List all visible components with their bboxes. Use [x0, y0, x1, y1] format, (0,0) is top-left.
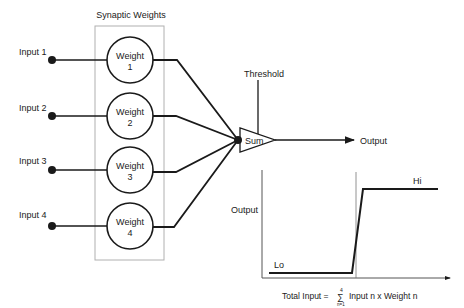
hi-label: Hi — [413, 176, 422, 186]
input-label: Input 4 — [19, 210, 47, 220]
sum-label: Sum — [245, 136, 264, 146]
input-label: Input 3 — [19, 156, 47, 166]
sigma-icon: ∑ — [337, 292, 343, 302]
step-function-graph: Output Lo Hi Total Input = ∑ 4 n=1 Input… — [231, 170, 450, 307]
weight-label: Weight — [116, 217, 144, 227]
input-label: Input 1 — [19, 47, 47, 57]
weight-label: Weight — [116, 161, 144, 171]
neuron-diagram: Synaptic Weights Input 1 Weight 1 Input … — [0, 0, 464, 308]
step-curve — [269, 189, 438, 273]
sigma-bottom: n=1 — [337, 302, 345, 307]
output-label: Output — [360, 136, 388, 146]
weight-label: Weight — [116, 51, 144, 61]
weight-number: 2 — [127, 118, 132, 128]
input-row-2: Input 2 Weight 2 — [19, 93, 238, 140]
x-label-suffix: Input n x Weight n — [349, 291, 418, 301]
input-label: Input 2 — [19, 103, 47, 113]
sum-node: Sum — [234, 128, 275, 152]
weight-label: Weight — [116, 107, 144, 117]
lo-label: Lo — [274, 260, 284, 270]
weight-number: 4 — [127, 228, 132, 238]
graph-y-label: Output — [231, 205, 259, 215]
weight-number: 1 — [127, 62, 132, 72]
sigma-top: 4 — [340, 287, 343, 293]
weight-number: 3 — [127, 172, 132, 182]
x-label-prefix: Total Input = — [282, 291, 329, 301]
threshold-label: Threshold — [244, 69, 284, 79]
sum-junction-dot — [234, 136, 242, 144]
box-title: Synaptic Weights — [96, 10, 166, 20]
